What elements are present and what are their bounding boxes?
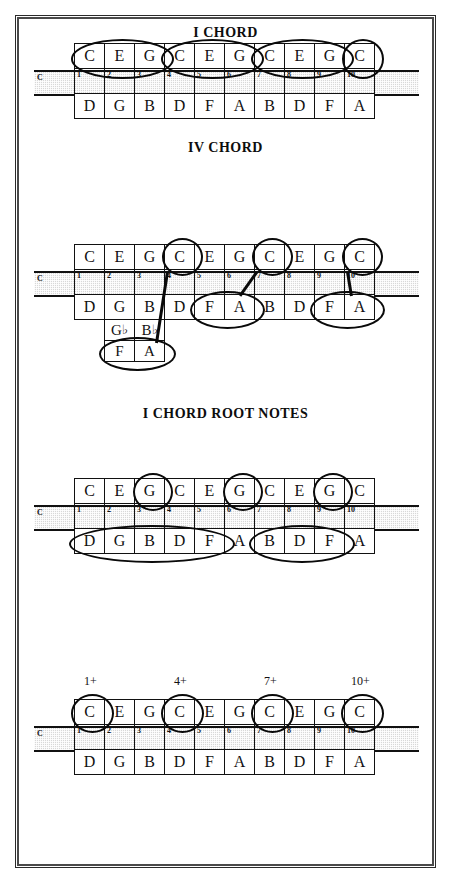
hole-number-10: 10 bbox=[344, 68, 375, 94]
blow-cell-10: C bbox=[344, 244, 375, 270]
blow-notes-row: CEGCEGCEGC bbox=[75, 245, 375, 270]
blow-cell-6: G bbox=[224, 244, 255, 270]
hole-number-4: 4 bbox=[164, 68, 195, 94]
hole-number-6: 6 bbox=[224, 503, 255, 529]
top-label-hole-4: 4+ bbox=[159, 674, 203, 689]
bend-column2-hole-2: F bbox=[105, 341, 135, 362]
blow-cell-10: C bbox=[344, 478, 375, 504]
hole-number-8: 8 bbox=[284, 503, 315, 529]
blow-cell-3: G bbox=[134, 699, 165, 725]
harmonica-diagram-4: CCEGCEGCEGC12345678910DGBDFABDFA1+4+7+10… bbox=[16, 698, 435, 784]
draw-notes-row: DGBDFABDFA bbox=[75, 94, 375, 119]
draw-cell-5: F bbox=[194, 294, 225, 320]
blow-cell-9: G bbox=[314, 244, 345, 270]
comb-key-label-3: C bbox=[37, 508, 43, 518]
hole-number-1: 1 bbox=[74, 269, 105, 295]
blow-notes-row: CEGCEGCEGC bbox=[75, 479, 375, 504]
draw-cell-7: B bbox=[254, 749, 285, 775]
section-title-4: I CHORD ROOT NOTES bbox=[16, 406, 435, 422]
hole-number-3: 3 bbox=[134, 503, 165, 529]
hole-number-2: 2 bbox=[104, 503, 135, 529]
hole-number-7: 7 bbox=[254, 68, 285, 94]
blow-cell-10: C bbox=[344, 43, 375, 69]
hole-number-6: 6 bbox=[224, 724, 255, 750]
draw-cell-8: D bbox=[284, 93, 315, 119]
page-frame: I CHORDCCEGCEGCEGC12345678910DGBDFABDFAI… bbox=[15, 15, 436, 868]
blow-cell-1: C bbox=[74, 244, 105, 270]
hole-number-1: 1 bbox=[74, 724, 105, 750]
draw-cell-4: D bbox=[164, 528, 195, 554]
hole-number-5: 5 bbox=[194, 269, 225, 295]
hole-number-9: 9 bbox=[314, 269, 345, 295]
bend-tier1-hole-2: G♭ bbox=[104, 319, 135, 341]
hole-number-3: 3 bbox=[134, 269, 165, 295]
blow-cell-4: C bbox=[164, 244, 195, 270]
draw-cell-6: A bbox=[224, 93, 255, 119]
hole-number-9: 9 bbox=[314, 68, 345, 94]
draw-cell-8: D bbox=[284, 528, 315, 554]
draw-cell-3: B bbox=[134, 93, 165, 119]
bend-column2-hole-3: A bbox=[135, 341, 165, 362]
blow-cell-8: E bbox=[284, 478, 315, 504]
draw-cell-5: F bbox=[194, 93, 225, 119]
hole-number-4: 4 bbox=[164, 724, 195, 750]
hole-number-10: 10 bbox=[344, 503, 375, 529]
hole-number-8: 8 bbox=[284, 269, 315, 295]
blow-cell-6: G bbox=[224, 699, 255, 725]
hole-number-2: 2 bbox=[104, 68, 135, 94]
section-title-1: I CHORD bbox=[16, 25, 435, 41]
hole-number-7: 7 bbox=[254, 503, 285, 529]
note-grid-3: CEGCEGCEGC12345678910DGBDFABDFA bbox=[75, 479, 375, 554]
note-grid-4: CEGCEGCEGC12345678910DGBDFABDFA bbox=[75, 700, 375, 775]
blow-cell-2: E bbox=[104, 244, 135, 270]
hole-number-6: 6 bbox=[224, 68, 255, 94]
section-title-2: IV CHORD bbox=[16, 140, 435, 156]
harmonica-diagram-2: CCEGCEGCEGC12345678910DGBDFABDFAG♭FB♭A bbox=[16, 243, 435, 329]
note-grid-1: CEGCEGCEGC12345678910DGBDFABDFA bbox=[75, 44, 375, 119]
draw-cell-6: A bbox=[224, 749, 255, 775]
comb-key-label-4: C bbox=[37, 729, 43, 739]
draw-cell-8: D bbox=[284, 294, 315, 320]
blow-cell-7: C bbox=[254, 43, 285, 69]
draw-cell-9: F bbox=[314, 749, 345, 775]
draw-cell-4: D bbox=[164, 93, 195, 119]
draw-cell-10: A bbox=[344, 749, 375, 775]
blow-cell-8: E bbox=[284, 43, 315, 69]
blow-cell-3: G bbox=[134, 244, 165, 270]
blow-cell-6: G bbox=[224, 43, 255, 69]
hole-numbers-row: 12345678910 bbox=[75, 270, 375, 295]
blow-cell-6: G bbox=[224, 478, 255, 504]
blow-cell-2: E bbox=[104, 478, 135, 504]
hole-number-9: 9 bbox=[314, 724, 345, 750]
hole-number-9: 9 bbox=[314, 503, 345, 529]
blow-notes-row: CEGCEGCEGC bbox=[75, 44, 375, 69]
draw-cell-1: D bbox=[74, 749, 105, 775]
hole-number-5: 5 bbox=[194, 503, 225, 529]
draw-notes-row: DGBDFABDFA bbox=[75, 750, 375, 775]
blow-cell-1: C bbox=[74, 478, 105, 504]
blow-cell-4: C bbox=[164, 478, 195, 504]
draw-cell-5: F bbox=[194, 749, 225, 775]
hole-numbers-row: 12345678910 bbox=[75, 504, 375, 529]
blow-cell-8: E bbox=[284, 699, 315, 725]
hole-number-3: 3 bbox=[134, 724, 165, 750]
top-label-hole-10: 10+ bbox=[339, 674, 383, 689]
hole-number-1: 1 bbox=[74, 68, 105, 94]
hole-number-8: 8 bbox=[284, 68, 315, 94]
diagram-sheet: I CHORDCCEGCEGCEGC12345678910DGBDFABDFAI… bbox=[16, 16, 435, 867]
blow-cell-7: C bbox=[254, 699, 285, 725]
draw-cell-9: F bbox=[314, 294, 345, 320]
harmonica-diagram-1: CCEGCEGCEGC12345678910DGBDFABDFA bbox=[16, 42, 435, 128]
top-label-hole-7: 7+ bbox=[249, 674, 293, 689]
hole-numbers-row: 12345678910 bbox=[75, 69, 375, 94]
blow-cell-5: E bbox=[194, 699, 225, 725]
hole-number-1: 1 bbox=[74, 503, 105, 529]
hole-number-5: 5 bbox=[194, 68, 225, 94]
hole-number-7: 7 bbox=[254, 724, 285, 750]
blow-cell-5: E bbox=[194, 244, 225, 270]
hole-numbers-row: 12345678910 bbox=[75, 725, 375, 750]
draw-cell-9: F bbox=[314, 528, 345, 554]
draw-cell-2: G bbox=[104, 749, 135, 775]
bend-tier2-hole-3: A bbox=[134, 340, 165, 362]
blow-cell-4: C bbox=[164, 699, 195, 725]
